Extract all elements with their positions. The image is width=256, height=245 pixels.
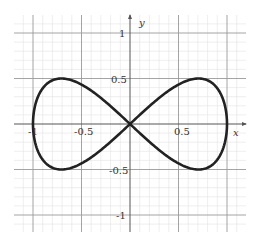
y-tick-label-neg05: -0.5 <box>109 165 128 176</box>
x-axis-label: x <box>233 127 239 138</box>
chart-plot-area: -1 -0.5 0.5 1 0.5 -0.5 -1 x y <box>0 0 256 245</box>
x-tick-label-neg05: -0.5 <box>74 126 93 137</box>
y-tick-label-neg1: -1 <box>116 210 126 221</box>
x-tick-label-neg1: -1 <box>28 126 38 137</box>
y-tick-label-05: 0.5 <box>111 74 127 85</box>
y-tick-label-1: 1 <box>119 28 125 39</box>
y-axis-arrow-icon <box>128 14 132 19</box>
y-axis-label: y <box>138 17 145 28</box>
x-axis-arrow-icon <box>242 122 247 126</box>
x-tick-label-05: 0.5 <box>174 126 190 137</box>
